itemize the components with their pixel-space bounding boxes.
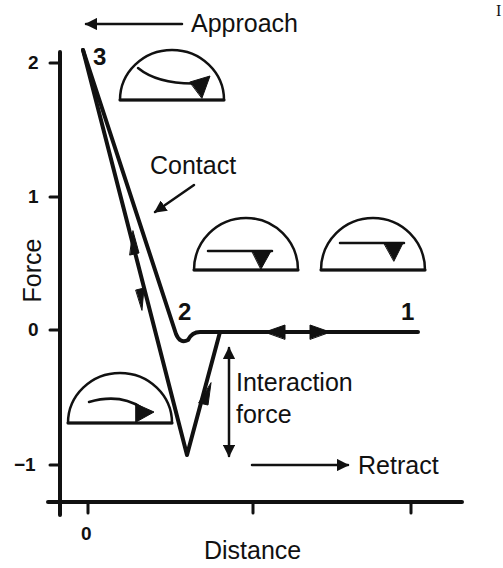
retract-label: Retract — [358, 453, 439, 478]
y-tick-neg1: −1 — [14, 455, 36, 474]
interaction-force-label-2: force — [236, 402, 292, 427]
arrow-right-flat — [310, 325, 330, 339]
point-3-label: 3 — [93, 45, 106, 69]
contact-arrow — [155, 185, 194, 212]
point-2-label: 2 — [178, 300, 191, 324]
point-1-label: 1 — [401, 300, 414, 324]
force-distance-diagram — [0, 0, 503, 568]
interaction-force-label-1: Interaction — [236, 370, 353, 395]
y-axis-label: Force — [20, 231, 45, 311]
y-tick-1: 1 — [28, 187, 39, 206]
cantilever-deflected-up-icon — [120, 50, 224, 100]
approach-curve — [83, 50, 418, 341]
y-tick-2: 2 — [28, 53, 39, 72]
arrow-down-contact — [136, 288, 144, 310]
y-tick-0: 0 — [28, 320, 39, 339]
cantilever-neutral-icon — [194, 218, 298, 270]
x-axis — [48, 502, 462, 513]
cantilever-deflected-down-icon — [68, 373, 172, 423]
y-axis — [50, 52, 60, 515]
approach-label: Approach — [191, 11, 298, 36]
arrow-left-flat — [265, 325, 285, 339]
edge-fragment-text: I — [496, 3, 501, 19]
x-tick-0: 0 — [81, 524, 92, 543]
contact-label: Contact — [150, 153, 236, 178]
cantilever-neutral-icon-2 — [321, 218, 425, 270]
x-axis-label: Distance — [204, 538, 301, 563]
